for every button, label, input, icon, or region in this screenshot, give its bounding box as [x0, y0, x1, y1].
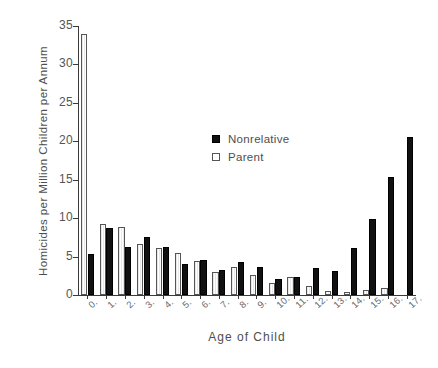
bar-parent [250, 275, 256, 295]
legend-label-nonrelative: Nonrelative [228, 133, 289, 145]
x-tick-mark [144, 295, 145, 299]
x-tick-label: 9. [255, 296, 269, 310]
x-axis-title: Age of Child [78, 330, 416, 344]
bar-parent [287, 277, 293, 295]
y-tick-label: 35 [59, 18, 73, 32]
bar-nonrelative [388, 177, 394, 295]
x-tick-mark [238, 295, 239, 299]
bar-nonrelative [369, 219, 375, 295]
x-tick-mark [219, 295, 220, 299]
bar-parent [269, 283, 275, 295]
bar-parent [363, 290, 369, 295]
bar-parent [306, 286, 312, 295]
x-tick-mark [163, 295, 164, 299]
y-tick-mark [73, 180, 78, 181]
x-tick-mark [125, 295, 126, 299]
y-tick-label: 25 [59, 95, 73, 109]
y-tick-mark [73, 295, 78, 296]
x-tick-mark [369, 295, 370, 299]
x-tick-mark [332, 295, 333, 299]
bar-parent [381, 288, 387, 295]
x-tick-label: 2. [124, 296, 138, 310]
bar-parent [175, 253, 181, 295]
x-tick-mark [407, 295, 408, 299]
x-tick-label: 0. [86, 296, 100, 310]
bar-nonrelative [257, 267, 263, 295]
y-tick-mark [73, 26, 78, 27]
bar-parent [81, 34, 87, 295]
x-tick-label: 6. [199, 296, 213, 310]
chart-legend: Nonrelative Parent [212, 131, 289, 167]
y-tick-mark [73, 257, 78, 258]
y-tick-label: 10 [59, 210, 73, 224]
y-tick-mark [73, 64, 78, 65]
legend-label-parent: Parent [228, 151, 264, 163]
y-tick-mark [73, 141, 78, 142]
x-tick-label: 5. [180, 296, 194, 310]
bar-nonrelative [407, 137, 413, 295]
open-square-icon [212, 153, 220, 161]
bar-parent [344, 292, 350, 295]
y-tick-mark [73, 218, 78, 219]
bar-parent [194, 261, 200, 295]
legend-item-nonrelative: Nonrelative [212, 131, 289, 147]
y-tick-mark [73, 103, 78, 104]
y-axis-line [78, 26, 79, 295]
x-tick-label: 7. [218, 296, 232, 310]
bar-nonrelative [88, 254, 94, 296]
x-tick-mark [313, 295, 314, 299]
y-tick-label: 15 [59, 172, 73, 186]
bar-nonrelative [294, 277, 300, 295]
bar-nonrelative [219, 270, 225, 295]
x-tick-label: 8. [237, 296, 251, 310]
y-tick-label: 20 [59, 133, 73, 147]
filled-square-icon [212, 135, 220, 143]
bar-nonrelative [200, 260, 206, 295]
bar-parent [231, 267, 237, 295]
bar-nonrelative [313, 268, 319, 295]
bar-parent [156, 248, 162, 295]
bar-nonrelative [106, 228, 112, 295]
bar-nonrelative [144, 237, 150, 295]
bar-parent [118, 227, 124, 295]
x-tick-mark [388, 295, 389, 299]
bar-nonrelative [351, 248, 357, 295]
x-axis-line [78, 295, 416, 296]
bar-nonrelative [182, 264, 188, 295]
y-tick-label: 0 [66, 287, 73, 301]
y-axis-title: Homicides per Million Children per Annum [37, 21, 49, 301]
x-tick-label: 4. [162, 296, 176, 310]
bar-parent [137, 244, 143, 295]
bar-nonrelative [275, 279, 281, 295]
x-tick-mark [200, 295, 201, 299]
x-tick-label: 3. [143, 296, 157, 310]
bar-nonrelative [163, 247, 169, 295]
x-tick-mark [294, 295, 295, 299]
bar-nonrelative [125, 247, 131, 295]
y-tick-label: 5 [66, 249, 73, 263]
bar-parent [100, 224, 106, 295]
bar-parent [212, 272, 218, 295]
bar-nonrelative [238, 262, 244, 295]
bar-parent [325, 291, 331, 295]
y-tick-label: 30 [59, 56, 73, 70]
homicides-by-age-bar-chart: Homicides per Million Children per Annum… [0, 0, 438, 368]
bar-nonrelative [332, 271, 338, 295]
legend-item-parent: Parent [212, 149, 289, 165]
x-tick-label: 1. [105, 296, 119, 310]
